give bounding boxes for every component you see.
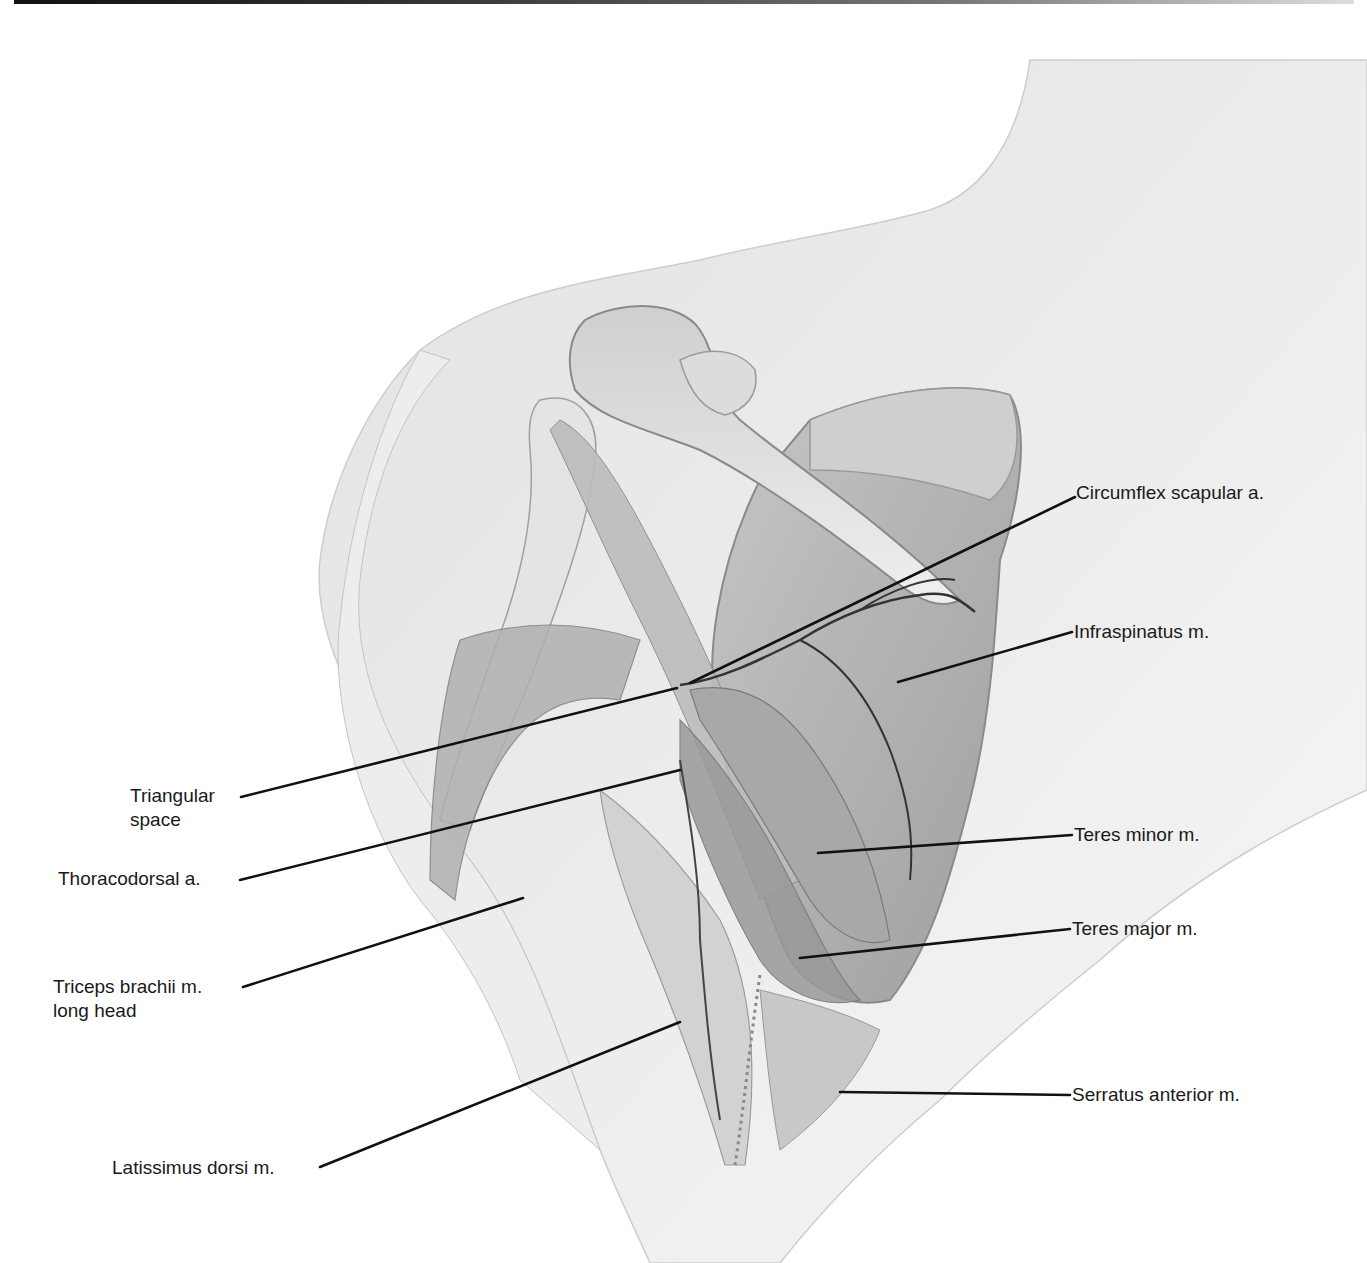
label-triceps-brachii-long-head: Triceps brachii m. long head: [53, 975, 202, 1023]
label-serratus-anterior-muscle: Serratus anterior m.: [1072, 1083, 1240, 1107]
label-triceps-line1: Triceps brachii m.: [53, 975, 202, 999]
label-circumflex-scapular-artery: Circumflex scapular a.: [1076, 481, 1264, 505]
label-triangular-space-line1: Triangular: [130, 784, 215, 808]
label-teres-major-muscle: Teres major m.: [1072, 917, 1198, 941]
label-triceps-line2: long head: [53, 999, 202, 1023]
label-infraspinatus-muscle: Infraspinatus m.: [1074, 620, 1209, 644]
label-thoracodorsal-artery: Thoracodorsal a.: [58, 867, 201, 891]
label-latissimus-dorsi-muscle: Latissimus dorsi m.: [112, 1156, 275, 1180]
label-triangular-space: Triangular space: [130, 784, 215, 832]
label-triangular-space-line2: space: [130, 808, 215, 832]
label-teres-minor-muscle: Teres minor m.: [1074, 823, 1200, 847]
